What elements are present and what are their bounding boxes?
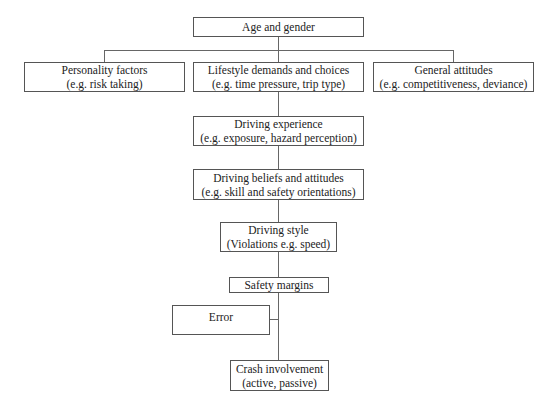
connector-lines [0, 0, 558, 402]
node-driving-style: Driving style (Violations e.g. speed) [220, 222, 337, 252]
node-label: Driving style [248, 223, 308, 237]
node-sublabel: (e.g. risk taking) [66, 77, 142, 91]
node-driving-experience: Driving experience (e.g. exposure, hazar… [193, 116, 364, 146]
node-safety-margins: Safety margins [229, 277, 329, 293]
node-lifestyle-demands: Lifestyle demands and choices (e.g. time… [193, 62, 364, 92]
node-label: Crash involvement [236, 362, 323, 376]
node-label: Error [209, 310, 233, 324]
node-label: Personality factors [62, 63, 148, 77]
node-label: Lifestyle demands and choices [208, 63, 349, 77]
node-crash-involvement: Crash involvement (active, passive) [230, 360, 329, 391]
node-age-and-gender: Age and gender [193, 17, 364, 37]
node-sublabel: (e.g. time pressure, trip type) [212, 77, 345, 91]
node-label: Driving beliefs and attitudes [213, 171, 344, 185]
node-sublabel: (e.g. exposure, hazard perception) [200, 131, 356, 145]
node-label: Safety margins [244, 278, 313, 292]
node-label: General attitudes [414, 63, 492, 77]
node-sublabel: (active, passive) [242, 376, 317, 390]
node-sublabel: (Violations e.g. speed) [227, 237, 330, 251]
node-personality-factors: Personality factors (e.g. risk taking) [24, 62, 185, 92]
node-driving-beliefs: Driving beliefs and attitudes (e.g. skil… [193, 169, 364, 200]
node-sublabel: (e.g. skill and safety orientations) [202, 185, 356, 199]
node-label: Age and gender [242, 20, 315, 34]
node-general-attitudes: General attitudes (e.g. competitiveness,… [373, 62, 534, 92]
node-sublabel: (e.g. competitiveness, deviance) [380, 77, 528, 91]
node-error: Error [172, 305, 270, 335]
node-label: Driving experience [234, 117, 322, 131]
